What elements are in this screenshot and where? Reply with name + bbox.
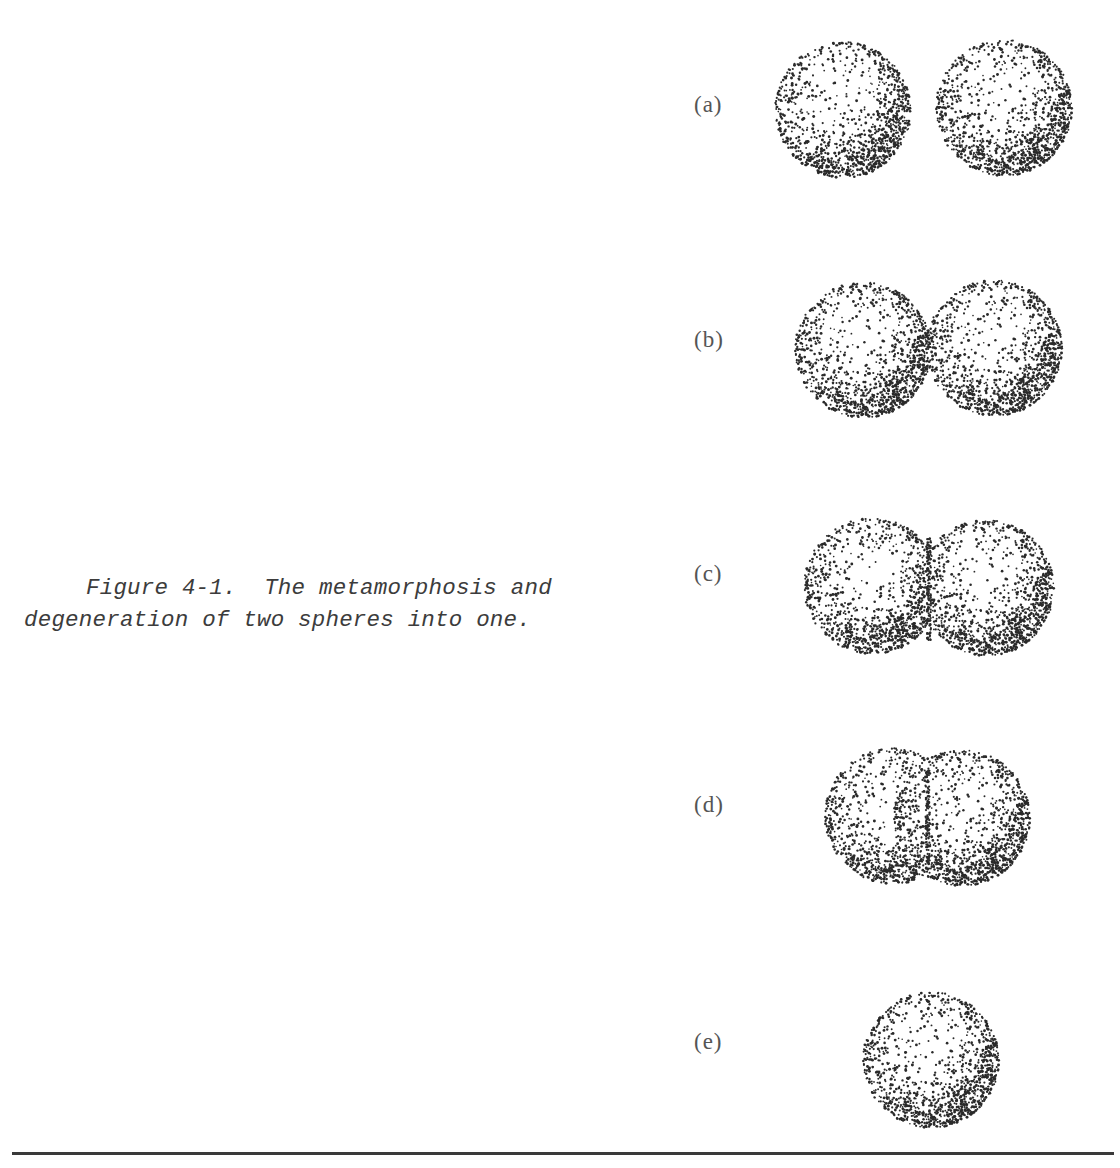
panel-label-e: (e): [694, 1029, 723, 1055]
panel-label-d: (d): [694, 792, 724, 818]
panel-label-b: (b): [694, 327, 724, 353]
bottom-rule: [12, 1152, 1114, 1155]
panel-label-c: (c): [694, 561, 723, 587]
sphere-group-b: [794, 280, 1063, 418]
sphere-illustrations: [0, 0, 1120, 1168]
sphere-group-a: [774, 40, 1073, 179]
panel-label-a: (a): [694, 92, 723, 118]
sphere-group-c: [804, 518, 1055, 657]
sphere-group-d: [824, 747, 1031, 886]
sphere-group-e: [862, 992, 1000, 1129]
